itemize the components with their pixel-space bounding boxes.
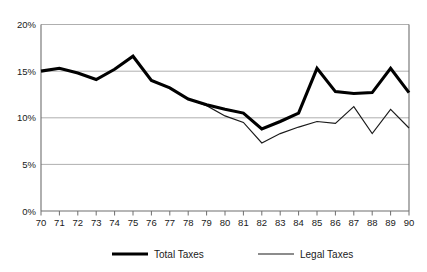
- x-tick-label: 78: [183, 217, 194, 228]
- x-tick-label: 88: [367, 217, 378, 228]
- legend-label-legal-taxes: Legal Taxes: [300, 249, 353, 260]
- y-tick-label: 15%: [17, 66, 37, 77]
- x-tick-label: 89: [385, 217, 396, 228]
- y-tick-label: 20%: [17, 19, 37, 30]
- x-tick-label: 71: [54, 217, 65, 228]
- x-tick-label: 76: [146, 217, 157, 228]
- line-chart: 20% 15% 10% 5% 0% 7071727374757677787980…: [0, 0, 427, 272]
- x-tick-label: 82: [257, 217, 268, 228]
- x-tick-label: 86: [330, 217, 341, 228]
- x-tick-label: 84: [293, 217, 304, 228]
- y-tick-label: 5%: [22, 159, 36, 170]
- chart-background: [0, 0, 427, 272]
- x-tick-label: 87: [349, 217, 360, 228]
- x-axis-ticks: [41, 211, 409, 216]
- x-axis-tick-labels: 7071727374757677787980818283848586878889…: [36, 217, 415, 228]
- x-tick-label: 90: [404, 217, 415, 228]
- x-tick-label: 72: [73, 217, 84, 228]
- x-tick-label: 75: [128, 217, 139, 228]
- chart-figure: 20% 15% 10% 5% 0% 7071727374757677787980…: [0, 0, 427, 272]
- legend-label-total-taxes: Total Taxes: [154, 249, 204, 260]
- x-tick-label: 81: [238, 217, 249, 228]
- x-tick-label: 85: [312, 217, 323, 228]
- x-tick-label: 80: [220, 217, 231, 228]
- y-tick-label: 10%: [17, 112, 37, 123]
- x-tick-label: 77: [165, 217, 176, 228]
- x-tick-label: 79: [201, 217, 212, 228]
- x-tick-label: 73: [91, 217, 102, 228]
- x-tick-label: 83: [275, 217, 286, 228]
- y-tick-label: 0%: [22, 206, 36, 217]
- x-tick-label: 74: [109, 217, 120, 228]
- x-tick-label: 70: [36, 217, 47, 228]
